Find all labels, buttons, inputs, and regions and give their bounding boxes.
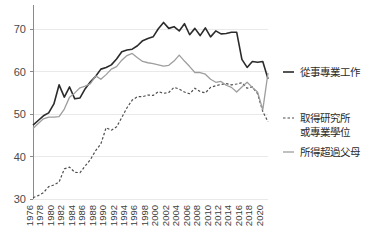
legend-label-2-line2[interactable]: 或專業學位 [300, 126, 351, 138]
x-tick-label: 1982 [55, 205, 66, 226]
y-tick-label: 30 [14, 193, 26, 205]
y-tick-label: 40 [14, 151, 26, 163]
chart-container: 3040506070 19761978198019821984198619881… [0, 0, 379, 244]
legend-label-2[interactable]: 取得研究所 [300, 112, 351, 124]
x-tick-label: 2020 [254, 205, 265, 226]
line-chart: 3040506070 19761978198019821984198619881… [0, 0, 379, 244]
y-tick-label: 70 [14, 23, 26, 35]
x-tick-label: 2002 [160, 205, 171, 226]
x-tick-label: 2004 [170, 205, 181, 226]
x-tick-label: 2010 [202, 205, 213, 226]
x-axis: 1976197819801982198419861988199019921994… [24, 205, 265, 226]
x-tick-label: 2012 [212, 205, 223, 226]
x-tick-label: 1988 [87, 205, 98, 226]
x-tick-label: 1980 [45, 205, 56, 226]
legend-label-3[interactable]: 所得超過父母 [300, 146, 360, 158]
x-tick-label: 1990 [97, 205, 108, 226]
series-line-1 [33, 22, 268, 125]
data-series [33, 22, 268, 197]
y-tick-label: 60 [14, 66, 26, 78]
chart-legend: 從事專業工作取得研究所或專業學位所得超過父母 [283, 66, 361, 158]
x-tick-label: 2000 [149, 205, 160, 226]
x-tick-label: 1986 [76, 205, 87, 226]
x-tick-label: 1998 [139, 205, 150, 226]
x-tick-label: 1978 [34, 205, 45, 226]
x-tick-label: 2016 [233, 205, 244, 226]
y-tick-label: 50 [14, 108, 26, 120]
x-tick-label: 2018 [243, 205, 254, 226]
x-tick-label: 1996 [128, 205, 139, 226]
x-tick-label: 1992 [108, 205, 119, 226]
legend-label-1[interactable]: 從事專業工作 [300, 66, 361, 78]
x-tick-label: 1984 [66, 205, 77, 226]
x-tick-label: 2006 [181, 205, 192, 226]
y-axis: 3040506070 [14, 5, 33, 205]
x-tick-label: 2014 [222, 205, 233, 226]
x-tick-label: 1976 [24, 205, 35, 226]
x-tick-label: 1994 [118, 205, 129, 226]
x-tick-label: 2008 [191, 205, 202, 226]
gridlines [33, 29, 268, 199]
